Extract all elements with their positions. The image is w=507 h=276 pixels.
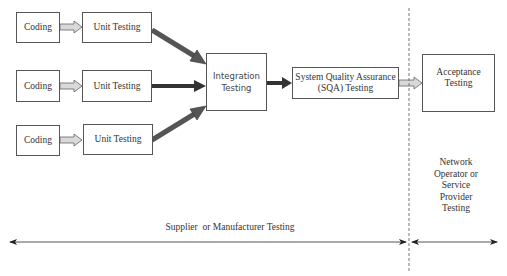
connectors-layer xyxy=(0,0,507,276)
coding-to-unit-arrow-1 xyxy=(60,21,82,33)
sqa-line1: System Quality Assurance xyxy=(295,72,395,83)
acceptance-line1: Acceptance xyxy=(436,67,480,78)
coding-to-unit-arrow-3 xyxy=(60,134,82,146)
unit-testing-box-3: Unit Testing xyxy=(83,124,153,155)
integration-line1: Integration xyxy=(213,70,260,82)
coding-box-2: Coding xyxy=(16,70,60,102)
coding-label: Coding xyxy=(24,135,52,146)
coding-box-3: Coding xyxy=(16,125,60,156)
unit-to-integration-arrow-1 xyxy=(152,30,206,64)
coding-label: Coding xyxy=(24,22,52,33)
sqa-testing-box: System Quality Assurance (SQA) Testing xyxy=(292,67,399,99)
unit-to-integration-arrow-2 xyxy=(152,80,206,92)
network-line5: Testing xyxy=(420,203,492,215)
network-line2: Operator or xyxy=(420,169,492,181)
unit-testing-label: Unit Testing xyxy=(95,134,142,145)
integration-testing-box: Integration Testing xyxy=(206,53,267,111)
integration-line2: Testing xyxy=(222,82,252,94)
unit-testing-label: Unit Testing xyxy=(94,22,141,33)
coding-label: Coding xyxy=(24,81,52,92)
network-line1: Network xyxy=(420,157,492,169)
acceptance-testing-box: Acceptance Testing xyxy=(422,54,495,112)
unit-testing-label: Unit Testing xyxy=(94,81,141,92)
supplier-manufacturer-label: Supplier or Manufacturer Testing xyxy=(130,222,330,232)
unit-to-integration-arrow-3 xyxy=(152,106,206,140)
acceptance-line2: Testing xyxy=(445,78,473,89)
network-operator-label: Network Operator or Service Provider Tes… xyxy=(420,157,492,215)
integration-to-sqa-arrow xyxy=(267,77,292,89)
unit-testing-box-2: Unit Testing xyxy=(82,70,152,102)
sqa-to-acceptance-arrow xyxy=(399,77,422,89)
testing-flow-diagram: Coding Unit Testing Coding Unit Testing … xyxy=(0,0,507,276)
sqa-line2: (SQA) Testing xyxy=(318,83,373,94)
coding-box-1: Coding xyxy=(16,12,60,43)
network-line4: Provider xyxy=(420,192,492,204)
network-line3: Service xyxy=(420,180,492,192)
unit-testing-box-1: Unit Testing xyxy=(82,12,152,43)
coding-to-unit-arrow-2 xyxy=(60,80,82,92)
